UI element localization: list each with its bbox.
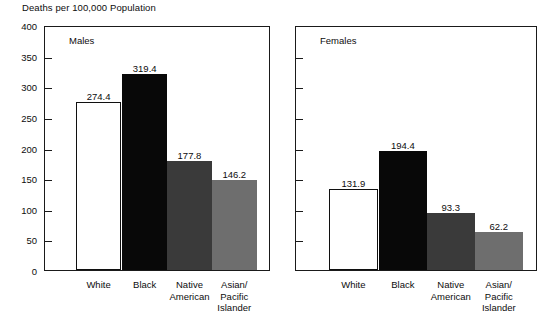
bar-white bbox=[76, 102, 121, 270]
bar-asian--pacific-islander bbox=[475, 232, 523, 270]
category-label: Asian/ Pacific Islander bbox=[217, 279, 251, 314]
y-tick-mark bbox=[45, 119, 52, 120]
bar-value-label: 62.2 bbox=[490, 221, 509, 232]
bar-value-label: 274.4 bbox=[87, 91, 111, 102]
bar-value-label: 177.8 bbox=[178, 150, 202, 161]
y-tick-label: 350 bbox=[21, 51, 37, 62]
y-tick-mark bbox=[296, 180, 303, 181]
bar-asian--pacific-islander bbox=[212, 180, 257, 270]
y-tick-mark bbox=[296, 58, 303, 59]
bar-black bbox=[379, 151, 427, 270]
y-tick-mark bbox=[45, 88, 52, 89]
category-label: Native American bbox=[169, 279, 209, 302]
bar-value-label: 146.2 bbox=[222, 169, 246, 180]
y-tick-label: 0 bbox=[32, 266, 37, 277]
y-tick-label: 250 bbox=[21, 112, 37, 123]
y-tick-mark bbox=[296, 241, 303, 242]
chart-figure: Deaths per 100,000 Population 4003503002… bbox=[0, 0, 552, 328]
panel-males: Males 274.4319.4177.8146.2 bbox=[44, 26, 270, 271]
y-tick-mark bbox=[45, 211, 52, 212]
bar-value-label: 93.3 bbox=[442, 202, 461, 213]
y-tick-mark bbox=[45, 58, 52, 59]
y-tick-mark bbox=[45, 180, 52, 181]
y-tick-label: 400 bbox=[21, 21, 37, 32]
bar-value-label: 131.9 bbox=[341, 178, 365, 189]
y-tick-mark bbox=[296, 211, 303, 212]
bar-native-american bbox=[167, 161, 212, 270]
y-tick-label: 100 bbox=[21, 204, 37, 215]
bar-native-american bbox=[427, 213, 475, 270]
plot-area-males: 274.4319.4177.8146.2 bbox=[45, 27, 269, 270]
category-label: Black bbox=[391, 279, 414, 291]
category-label: White bbox=[341, 279, 365, 291]
category-label: Native American bbox=[431, 279, 471, 302]
category-label: Asian/ Pacific Islander bbox=[482, 279, 516, 314]
y-tick-label: 50 bbox=[26, 235, 37, 246]
bar-white bbox=[329, 189, 377, 270]
plot-area-females: 131.9194.493.362.2 bbox=[296, 27, 536, 270]
y-tick-mark bbox=[296, 88, 303, 89]
y-tick-mark bbox=[45, 241, 52, 242]
category-label: White bbox=[86, 279, 110, 291]
y-tick-mark bbox=[45, 150, 52, 151]
y-tick-mark bbox=[296, 119, 303, 120]
y-axis: 400350300250200150100500 bbox=[0, 20, 44, 276]
bar-value-label: 194.4 bbox=[391, 140, 415, 151]
y-tick-label: 200 bbox=[21, 143, 37, 154]
y-tick-label: 300 bbox=[21, 82, 37, 93]
chart-title: Deaths per 100,000 Population bbox=[22, 2, 156, 13]
panel-females: Females 131.9194.493.362.2 bbox=[295, 26, 537, 271]
category-label: Black bbox=[133, 279, 156, 291]
bar-black bbox=[122, 74, 167, 270]
bar-value-label: 319.4 bbox=[133, 63, 157, 74]
y-tick-label: 150 bbox=[21, 174, 37, 185]
y-tick-mark bbox=[296, 150, 303, 151]
